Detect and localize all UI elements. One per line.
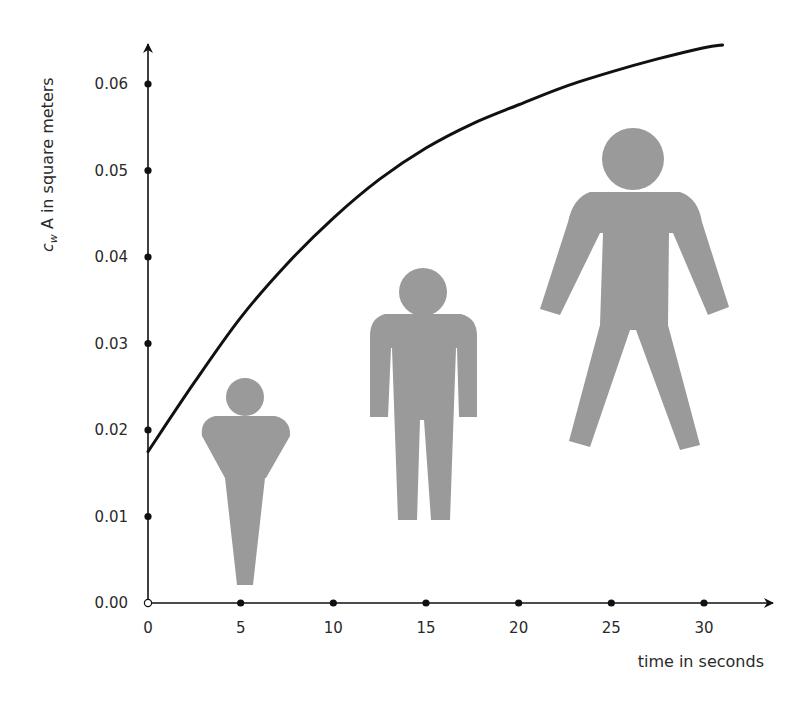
- adult-figure: [370, 268, 477, 520]
- y-tick-mark: [144, 167, 151, 174]
- y-tick-label: 0.03: [95, 335, 128, 353]
- y-tick-label: 0.06: [95, 75, 128, 93]
- y-tick-mark: [144, 340, 151, 347]
- y-tick-label: 0.04: [95, 248, 128, 266]
- x-tick-label: 25: [602, 619, 621, 637]
- x-tick-label: 15: [416, 619, 435, 637]
- y-tick-label: 0.00: [95, 594, 128, 612]
- y-tick-mark: [144, 599, 151, 606]
- y-tick-mark: [144, 513, 151, 520]
- y-tick-mark: [144, 253, 151, 260]
- chart: 0.000.010.020.030.040.050.06 05101520253…: [0, 0, 809, 701]
- x-axis-title: time in seconds: [638, 652, 764, 671]
- x-tick-mark: [422, 599, 429, 606]
- y-axis-title: cw A in square meters: [38, 77, 60, 252]
- x-tick-mark: [237, 599, 244, 606]
- x-tick-mark: [700, 599, 707, 606]
- y-tick-mark: [144, 426, 151, 433]
- y-axis-title-rest: A in square meters: [38, 77, 57, 234]
- y-tick-label: 0.02: [95, 421, 128, 439]
- x-tick-mark: [515, 599, 522, 606]
- large-figure: [540, 128, 729, 450]
- y-axis-title-prefix: c: [38, 243, 57, 252]
- y-tick-label: 0.01: [95, 508, 128, 526]
- y-axis-title-subscript: w: [47, 234, 60, 243]
- x-tick-mark: [330, 599, 337, 606]
- x-tick-label: 20: [509, 619, 528, 637]
- x-tick-label: 0: [143, 619, 153, 637]
- y-tick-label: 0.05: [95, 162, 128, 180]
- x-tick-label: 10: [324, 619, 343, 637]
- x-tick-label: 30: [694, 619, 713, 637]
- x-tick-label: 5: [236, 619, 246, 637]
- y-tick-mark: [144, 80, 151, 87]
- child-figure: [202, 378, 290, 585]
- x-tick-mark: [608, 599, 615, 606]
